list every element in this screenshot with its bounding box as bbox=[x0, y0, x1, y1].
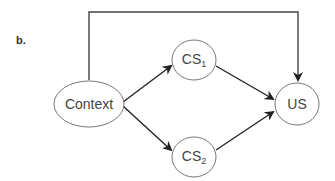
edge-cs2-to-us bbox=[216, 112, 273, 150]
panel-label: b. bbox=[16, 34, 26, 46]
node-context-label: Context bbox=[65, 96, 113, 112]
edge-cs1-to-us bbox=[216, 66, 273, 99]
diagram-canvas bbox=[0, 0, 335, 181]
cs1-text: CS bbox=[182, 51, 201, 67]
cs2-text: CS bbox=[182, 148, 201, 164]
edge-context-to-cs2 bbox=[123, 106, 171, 150]
node-us-label: US bbox=[287, 96, 306, 112]
us-text: US bbox=[287, 96, 306, 112]
context-text: Context bbox=[65, 96, 113, 112]
node-cs1-label: CS1 bbox=[182, 51, 206, 69]
node-cs2-label: CS2 bbox=[182, 148, 206, 166]
edge-context-to-cs1 bbox=[123, 66, 171, 102]
cs1-subscript: 1 bbox=[201, 59, 206, 69]
cs2-subscript: 2 bbox=[201, 156, 206, 166]
